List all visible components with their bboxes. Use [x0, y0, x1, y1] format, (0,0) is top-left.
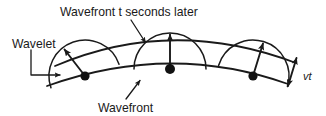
left-radius-vector [65, 50, 86, 77]
source-points-group [80, 64, 257, 81]
left-label-leader [31, 50, 60, 75]
right-label-vt: vt [303, 70, 313, 82]
right-radius-vector [253, 44, 263, 77]
right-source-point [248, 71, 257, 80]
diagram-canvas: Wavefront t seconds later Wavelet Wavefr… [0, 0, 326, 116]
left-source-point [80, 71, 89, 80]
top-label-wavefront-t-seconds-later: Wavefront t seconds later [60, 5, 198, 19]
bottom-label-wavefront: Wavefront [98, 101, 154, 115]
left-label-wavelet: Wavelet [12, 37, 56, 51]
leader-lines-group [31, 20, 146, 99]
bottom-label-leader [126, 81, 140, 100]
center-source-point [165, 64, 175, 74]
wavefront-diagram: Wavefront t seconds later Wavelet Wavefr… [0, 0, 326, 116]
top-label-leader [131, 20, 146, 43]
